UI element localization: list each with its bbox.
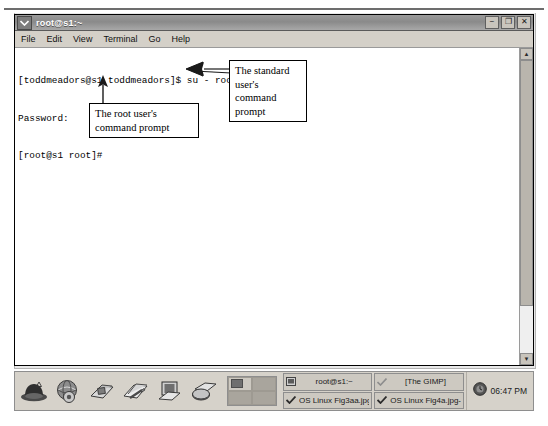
word-processor-icon[interactable] (120, 375, 152, 407)
workspace-3[interactable] (228, 391, 252, 405)
spreadsheet-icon[interactable] (188, 375, 220, 407)
task-button-fig4a[interactable]: OS Linux Fig4a.jpg-1.0 (374, 392, 463, 410)
scrollbar-track[interactable] (520, 60, 533, 353)
launcher-area (15, 372, 223, 410)
window-menu-chevron-icon[interactable] (17, 16, 32, 30)
system-tray: 06:47 PM (466, 372, 533, 410)
task-label: OS Linux Fig4a.jpg-1.0 (390, 396, 460, 405)
task-label: root@s1:~ (299, 377, 369, 386)
terminal-line: [root@s1 root]# (18, 150, 519, 163)
menu-view[interactable]: View (73, 34, 92, 44)
window-titlebar[interactable]: root@s1:~ − ❐ ✕ (15, 15, 533, 31)
minimize-button[interactable]: − (485, 16, 499, 29)
window-task-list: root@s1:~ [The GIMP] OS Linux Fig3aa.jpg… (281, 372, 466, 410)
terminal-icon (286, 377, 296, 387)
clock-label: 06:47 PM (491, 386, 527, 396)
window-title: root@s1:~ (36, 18, 82, 28)
workspace-2[interactable] (252, 377, 276, 391)
scroll-up-arrow-icon[interactable]: ▲ (520, 48, 533, 60)
desktop: root@s1:~ − ❐ ✕ File Edit View Terminal … (0, 0, 548, 426)
taskbar-panel: root@s1:~ [The GIMP] OS Linux Fig3aa.jpg… (14, 371, 534, 411)
maximize-button[interactable]: ❐ (501, 16, 515, 29)
workspace-column (252, 377, 276, 405)
annotation-standard-user-prompt: The standard user's command prompt (229, 60, 307, 122)
menu-terminal[interactable]: Terminal (103, 34, 137, 44)
vertical-scrollbar[interactable]: ▲ ▼ (519, 48, 533, 365)
screen-top-divider (4, 8, 544, 10)
workspace-4[interactable] (252, 391, 276, 405)
menu-bar: File Edit View Terminal Go Help (15, 31, 533, 48)
web-browser-icon[interactable] (52, 375, 84, 407)
menu-go[interactable]: Go (148, 34, 160, 44)
task-button-gimp[interactable]: [The GIMP] (374, 373, 463, 391)
presentation-icon[interactable] (154, 375, 186, 407)
annotation-root-user-prompt: The root user's command prompt (89, 103, 199, 138)
check-icon (286, 395, 296, 405)
task-label: [The GIMP] (390, 377, 460, 386)
menu-edit[interactable]: Edit (47, 34, 63, 44)
window-controls: − ❐ ✕ (485, 16, 531, 29)
task-button-fig3aa[interactable]: OS Linux Fig3aa.jpg-0. (283, 392, 372, 410)
workspace-column (228, 377, 252, 405)
red-hat-menu-icon[interactable] (18, 375, 50, 407)
workspace-switcher[interactable] (227, 376, 277, 406)
email-icon[interactable] (86, 375, 118, 407)
annotation-arrow-standard (170, 58, 232, 80)
check-icon (377, 395, 387, 405)
task-row: root@s1:~ [The GIMP] (283, 373, 464, 391)
workspace-1[interactable] (228, 377, 252, 391)
scrollbar-thumb[interactable] (520, 60, 533, 306)
menu-help[interactable]: Help (171, 34, 190, 44)
task-label: OS Linux Fig3aa.jpg-0. (299, 396, 369, 405)
task-button-terminal[interactable]: root@s1:~ (283, 373, 372, 391)
clock-icon (473, 382, 487, 400)
menu-file[interactable]: File (21, 34, 36, 44)
close-button[interactable]: ✕ (517, 16, 531, 29)
workspace-window-thumb (231, 379, 243, 388)
annotation-arrow-root (96, 74, 120, 106)
scroll-down-arrow-icon[interactable]: ▼ (520, 353, 533, 365)
task-row: OS Linux Fig3aa.jpg-0. OS Linux Fig4a.jp… (283, 392, 464, 410)
check-icon (377, 377, 387, 387)
